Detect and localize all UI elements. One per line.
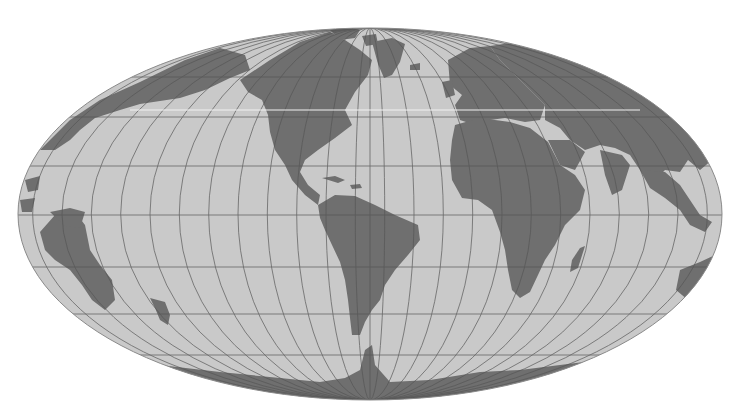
land-antarctica	[0, 340, 739, 405]
map-body	[0, 26, 739, 405]
world-map	[0, 0, 739, 405]
